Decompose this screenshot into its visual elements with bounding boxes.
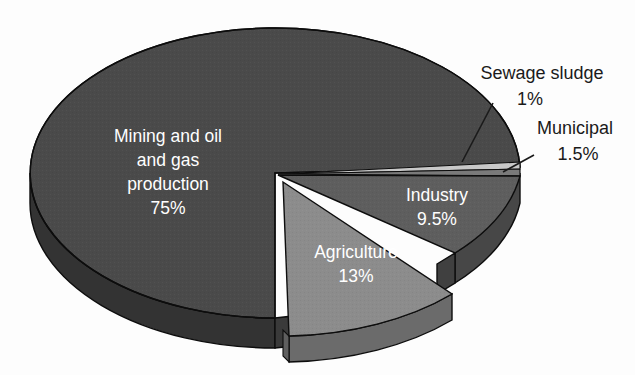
label-municipal-value: 1.5% <box>557 144 598 164</box>
label-sewage-sludge-name: Sewage sludge <box>480 63 603 83</box>
label-industry-name: Industry <box>406 185 468 205</box>
pie-chart-figure: Mining and oil and gas production 75% Ag… <box>0 0 635 375</box>
label-sewage-sludge-value: 1% <box>517 89 543 109</box>
label-agriculture-name: Agriculture <box>314 242 398 262</box>
side-wall-agriculture-left <box>283 330 289 362</box>
pie-chart-svg: Mining and oil and gas production 75% Ag… <box>0 0 635 375</box>
label-municipal-name: Municipal <box>537 118 613 138</box>
label-mining-line1: Mining and oil <box>114 126 222 146</box>
label-agriculture-value: 13% <box>338 266 373 286</box>
label-mining-value: 75% <box>150 198 185 218</box>
label-industry-value: 9.5% <box>417 209 457 229</box>
label-mining-line3: production <box>127 174 209 194</box>
label-mining-line2: and gas <box>137 150 200 170</box>
